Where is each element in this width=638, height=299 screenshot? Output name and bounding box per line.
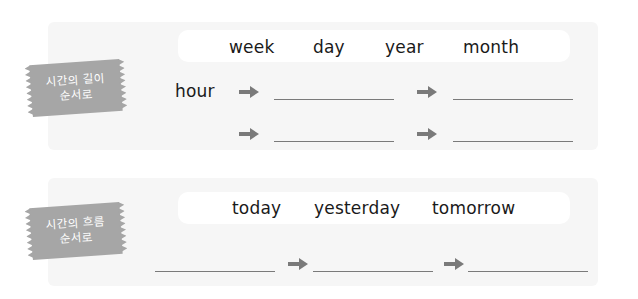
word-yesterday: yesterday bbox=[314, 198, 400, 218]
right-arrow-icon bbox=[417, 86, 437, 98]
answer-blank[interactable] bbox=[313, 271, 433, 272]
right-arrow-icon bbox=[417, 128, 437, 140]
start-word-hour: hour bbox=[175, 81, 215, 101]
right-arrow-icon bbox=[444, 258, 464, 270]
word-day: day bbox=[313, 37, 345, 57]
word-tomorrow: tomorrow bbox=[432, 198, 515, 218]
section-1-tag: 시간의 길이 순서로 bbox=[29, 59, 122, 117]
answer-blank[interactable] bbox=[274, 141, 394, 142]
word-week: week bbox=[229, 37, 274, 57]
word-today: today bbox=[232, 198, 281, 218]
section-2-tag: 시간의 흐름 순서로 bbox=[29, 202, 122, 260]
word-year: year bbox=[385, 37, 424, 57]
right-arrow-icon bbox=[288, 258, 308, 270]
answer-blank[interactable] bbox=[453, 141, 573, 142]
right-arrow-icon bbox=[239, 86, 259, 98]
answer-blank[interactable] bbox=[274, 99, 394, 100]
word-month: month bbox=[463, 37, 519, 57]
answer-blank[interactable] bbox=[453, 99, 573, 100]
answer-blank[interactable] bbox=[468, 271, 588, 272]
answer-blank[interactable] bbox=[155, 271, 275, 272]
right-arrow-icon bbox=[239, 128, 259, 140]
